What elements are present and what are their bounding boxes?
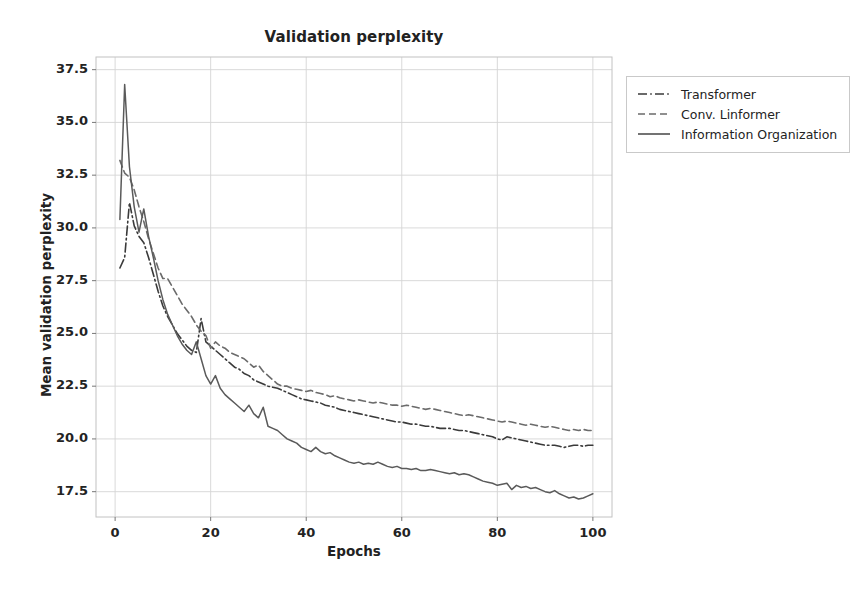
legend-item-2[interactable]: Information Organization: [637, 124, 837, 144]
legend-label: Transformer: [681, 87, 756, 102]
grid-lines: [96, 57, 612, 517]
y-tick-label: 17.5: [26, 483, 88, 498]
y-tick-label: 27.5: [26, 272, 88, 287]
chart-legend[interactable]: TransformerConv. LinformerInformation Or…: [626, 76, 850, 153]
chart-figure: Validation perplexity 17.520.022.525.027…: [0, 0, 864, 592]
series-line-1: [120, 160, 593, 430]
y-tick-label: 30.0: [26, 219, 88, 234]
legend-line-sample: [637, 128, 671, 140]
y-tick-label: 25.0: [26, 324, 88, 339]
series-line-2: [120, 84, 593, 499]
legend-item-0[interactable]: Transformer: [637, 84, 837, 104]
y-tick-label: 37.5: [26, 61, 88, 76]
tick-marks: [92, 70, 593, 521]
y-tick-label: 22.5: [26, 377, 88, 392]
x-tick-label: 40: [276, 525, 336, 540]
legend-label: Conv. Linformer: [681, 107, 780, 122]
x-tick-label: 100: [563, 525, 623, 540]
y-tick-label: 32.5: [26, 166, 88, 181]
series-lines: [120, 84, 593, 499]
x-tick-label: 60: [372, 525, 432, 540]
series-line-0: [120, 203, 593, 448]
legend-item-1[interactable]: Conv. Linformer: [637, 104, 837, 124]
y-tick-label: 35.0: [26, 113, 88, 128]
x-tick-label: 80: [467, 525, 527, 540]
x-axis-label: Epochs: [96, 543, 612, 559]
x-tick-label: 0: [85, 525, 145, 540]
legend-label: Information Organization: [681, 127, 837, 142]
legend-line-sample: [637, 108, 671, 120]
y-axis-label: Mean validation perplexity: [38, 145, 54, 445]
y-tick-label: 20.0: [26, 430, 88, 445]
x-tick-label: 20: [181, 525, 241, 540]
plot-frame: [96, 57, 612, 517]
legend-line-sample: [637, 88, 671, 100]
